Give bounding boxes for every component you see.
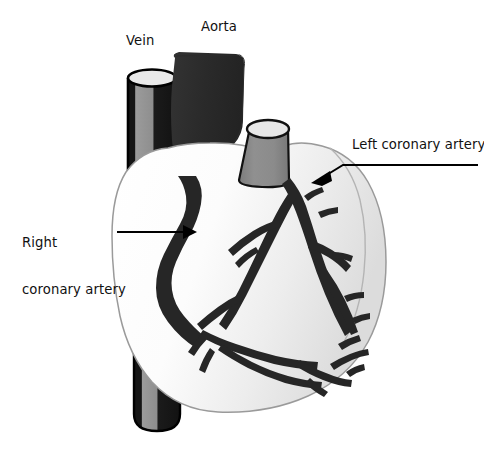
label-vein: Vein bbox=[126, 33, 155, 49]
label-aorta: Aorta bbox=[201, 19, 237, 35]
label-right-coronary-line1: Right bbox=[22, 235, 126, 251]
label-right-coronary-line2: coronary artery bbox=[22, 282, 126, 298]
vein-lumen-opening bbox=[128, 70, 176, 87]
pulmonary-trunk bbox=[239, 120, 289, 187]
label-left-coronary-artery: Left coronary artery bbox=[352, 137, 484, 153]
label-right-coronary-artery: Right coronary artery bbox=[22, 204, 126, 328]
pulmonary-lumen-opening bbox=[247, 120, 289, 138]
heart-anatomy-figure: Vein Aorta Left coronary artery Right co… bbox=[0, 0, 484, 454]
